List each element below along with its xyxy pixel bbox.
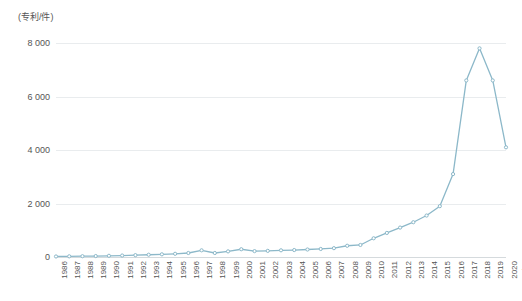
data-point-marker[interactable] bbox=[200, 249, 203, 252]
x-tick-label: 2006 bbox=[324, 261, 333, 279]
x-tick-label: 2003 bbox=[285, 261, 294, 279]
x-tick-label: 2008 bbox=[351, 261, 360, 279]
data-point-marker[interactable] bbox=[478, 47, 481, 50]
x-tick-label: 1993 bbox=[152, 261, 161, 279]
data-point-marker[interactable] bbox=[121, 254, 124, 257]
data-point-marker[interactable] bbox=[412, 221, 415, 224]
chart-container: (专利/件) 02 0004 0006 0008 000 19861987198… bbox=[0, 0, 522, 301]
data-point-marker[interactable] bbox=[68, 255, 71, 258]
data-point-marker[interactable] bbox=[385, 231, 388, 234]
x-tick-label: 2013 bbox=[417, 261, 426, 279]
x-tick-label: 2020 bbox=[510, 261, 519, 279]
data-point-marker[interactable] bbox=[160, 253, 163, 256]
x-tick-label: 1989 bbox=[99, 261, 108, 279]
x-tick-label: 2017 bbox=[470, 261, 479, 279]
x-tick-label: 1998 bbox=[218, 261, 227, 279]
data-point-marker[interactable] bbox=[187, 251, 190, 254]
x-tick-label: 1992 bbox=[139, 261, 148, 279]
data-point-marker[interactable] bbox=[372, 237, 375, 240]
data-point-marker[interactable] bbox=[504, 146, 507, 149]
data-point-marker[interactable] bbox=[491, 79, 494, 82]
x-tick-label: 1999 bbox=[232, 261, 241, 279]
x-tick-label: 1991 bbox=[126, 261, 135, 279]
x-tick-label: 2014 bbox=[430, 261, 439, 279]
data-point-marker[interactable] bbox=[306, 248, 309, 251]
x-tick-label: 1988 bbox=[86, 261, 95, 279]
y-axis-tick-labels: 02 0004 0006 0008 000 bbox=[0, 43, 50, 257]
data-point-marker[interactable] bbox=[319, 247, 322, 250]
y-tick-label: 8 000 bbox=[27, 38, 50, 48]
x-tick-label: 2005 bbox=[311, 261, 320, 279]
data-point-marker[interactable] bbox=[134, 254, 137, 257]
y-tick-label: 6 000 bbox=[27, 92, 50, 102]
data-point-marker[interactable] bbox=[94, 254, 97, 257]
x-tick-label: 2016 bbox=[457, 261, 466, 279]
data-point-marker[interactable] bbox=[107, 254, 110, 257]
x-axis-tick-labels: 1986198719881989199019911992199319941995… bbox=[56, 261, 522, 301]
y-tick-label: 0 bbox=[45, 252, 50, 262]
x-tick-label: 2015 bbox=[443, 261, 452, 279]
data-point-marker[interactable] bbox=[147, 253, 150, 256]
y-axis-unit-label: (专利/件) bbox=[18, 11, 54, 23]
series-line bbox=[56, 48, 506, 256]
x-tick-label: 2018 bbox=[483, 261, 492, 279]
x-tick-label: 1987 bbox=[73, 261, 82, 279]
data-point-marker[interactable] bbox=[279, 249, 282, 252]
data-point-marker[interactable] bbox=[226, 250, 229, 253]
x-tick-label: 2010 bbox=[377, 261, 386, 279]
data-point-marker[interactable] bbox=[174, 252, 177, 255]
data-point-marker[interactable] bbox=[465, 79, 468, 82]
data-point-marker[interactable] bbox=[359, 243, 362, 246]
data-point-marker[interactable] bbox=[399, 226, 402, 229]
x-tick-label: 2011 bbox=[390, 261, 399, 278]
y-tick-label: 2 000 bbox=[27, 199, 50, 209]
y-tick-label: 4 000 bbox=[27, 145, 50, 155]
data-point-marker[interactable] bbox=[425, 214, 428, 217]
data-point-marker[interactable] bbox=[266, 249, 269, 252]
data-point-marker[interactable] bbox=[438, 205, 441, 208]
data-point-marker[interactable] bbox=[253, 250, 256, 253]
data-point-marker[interactable] bbox=[346, 244, 349, 247]
x-tick-label: 2001 bbox=[258, 261, 267, 279]
data-point-marker[interactable] bbox=[81, 255, 84, 258]
x-tick-label: 1995 bbox=[179, 261, 188, 279]
data-point-marker[interactable] bbox=[332, 247, 335, 250]
x-tick-label: 1986 bbox=[60, 261, 69, 279]
data-point-marker[interactable] bbox=[451, 172, 454, 175]
x-tick-label: 1994 bbox=[165, 261, 174, 279]
line-series-svg bbox=[56, 43, 506, 257]
data-point-marker[interactable] bbox=[240, 248, 243, 251]
data-point-marker[interactable] bbox=[54, 255, 57, 258]
data-point-marker[interactable] bbox=[293, 248, 296, 251]
x-tick-label: 2000 bbox=[245, 261, 254, 279]
x-tick-label: 1996 bbox=[192, 261, 201, 279]
x-tick-label: 1997 bbox=[205, 261, 214, 279]
x-tick-label: 2002 bbox=[271, 261, 280, 279]
x-tick-label: 2012 bbox=[404, 261, 413, 279]
data-point-marker[interactable] bbox=[213, 251, 216, 254]
x-tick-label: 2004 bbox=[298, 261, 307, 279]
x-tick-label: 1990 bbox=[112, 261, 121, 279]
x-tick-label: 2007 bbox=[337, 261, 346, 279]
x-tick-label: 2019 bbox=[496, 261, 505, 279]
plot-area bbox=[56, 43, 506, 257]
x-tick-label: 2009 bbox=[364, 261, 373, 279]
